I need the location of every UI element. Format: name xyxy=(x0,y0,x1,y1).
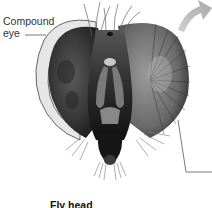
ocelli xyxy=(107,32,113,36)
fly-head-diagram: Compound eye Fly head xyxy=(0,0,212,208)
right-leader-line xyxy=(178,120,212,172)
compound-eye-label-line2: eye xyxy=(3,27,54,39)
zoom-arrow-icon xyxy=(178,0,212,32)
diagram-caption: Fly head xyxy=(50,199,93,208)
compound-eye-label: Compound eye xyxy=(3,15,54,39)
compound-eye-label-line1: Compound xyxy=(3,15,54,27)
